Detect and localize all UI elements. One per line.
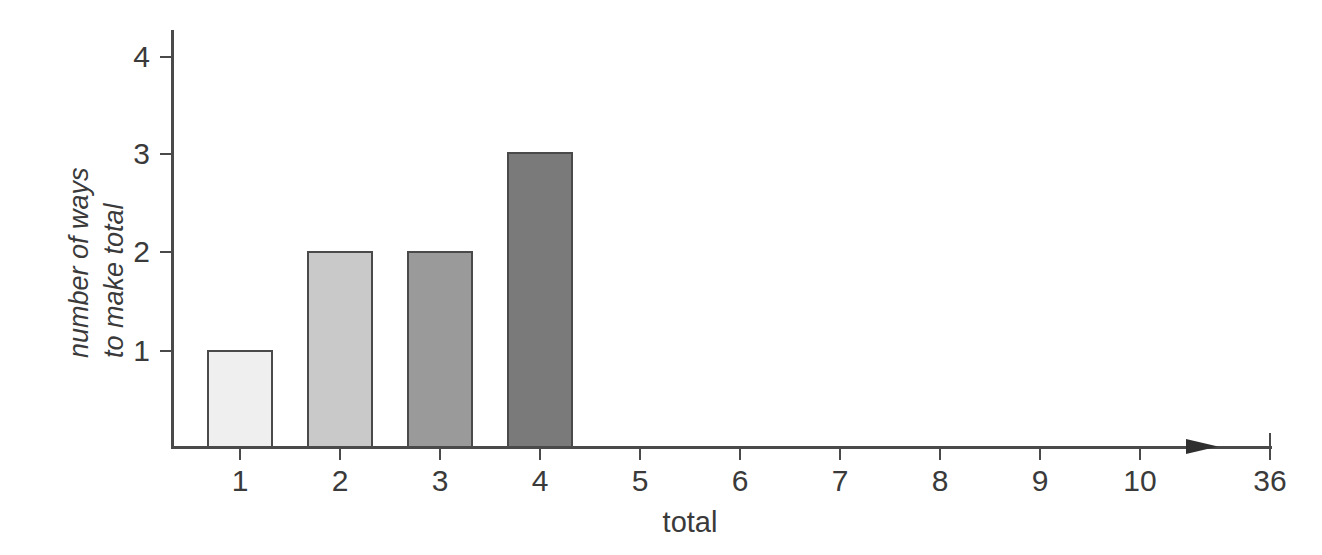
x-tick-5 [639,447,641,460]
x-tick-label-5: 5 [600,466,680,496]
bar-1 [207,350,273,449]
x-tick-label-6: 6 [700,466,780,496]
x-tick-10 [1139,447,1141,460]
bar-3 [407,251,473,449]
x-tick-label-1: 1 [200,466,280,496]
x-tick-8 [939,447,941,460]
y-axis-title-line-2: to make total [97,167,132,358]
x-tick-6 [739,447,741,460]
x-axis-line [171,446,1272,449]
x-tick-label-3: 3 [400,466,480,496]
x-tick-2 [339,447,341,460]
x-tick-36 [1269,433,1271,460]
y-axis-title: number of ways to make total [62,167,131,358]
y-tick-3 [160,153,173,155]
x-tick-label-4: 4 [500,466,580,496]
y-axis-line [171,30,174,449]
x-tick-label-36: 36 [1230,466,1310,496]
bar-chart: 4 3 2 1 number of ways to make total 1 2… [0,0,1322,555]
x-tick-1 [239,447,241,460]
y-tick-4 [160,56,173,58]
x-tick-label-2: 2 [300,466,380,496]
x-tick-label-7: 7 [800,466,880,496]
x-tick-label-9: 9 [1000,466,1080,496]
x-axis-arrow-icon [1184,430,1224,464]
x-axis-title: total [610,506,770,539]
y-tick-label-3: 3 [110,139,150,169]
x-tick-label-10: 10 [1100,466,1180,496]
y-tick-1 [160,350,173,352]
y-tick-2 [160,251,173,253]
bar-2 [307,251,373,449]
x-tick-label-8: 8 [900,466,980,496]
x-tick-3 [439,447,441,460]
y-axis-title-line-1: number of ways [62,167,97,358]
y-tick-label-4: 4 [110,42,150,72]
x-tick-7 [839,447,841,460]
x-tick-9 [1039,447,1041,460]
x-tick-4 [539,447,541,460]
bar-4 [507,152,573,449]
